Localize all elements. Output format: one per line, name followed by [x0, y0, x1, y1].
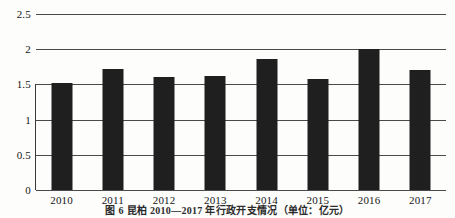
- bar-2011: [102, 69, 123, 190]
- bar-slot-2016: 2016: [344, 14, 395, 190]
- bar-2013: [205, 76, 226, 190]
- y-axis-tick-label: 2: [25, 44, 31, 55]
- y-axis-tick-label: 1: [25, 114, 31, 125]
- bar-2010: [51, 83, 72, 190]
- bars-group: 20102011201220132014201520162017: [36, 14, 446, 190]
- bar-2012: [154, 77, 175, 190]
- y-axis-tick-label: 0: [25, 185, 31, 196]
- bar-2015: [307, 79, 328, 190]
- y-axis-tick-label: 1.5: [17, 79, 31, 90]
- bar-slot-2012: 2012: [139, 14, 190, 190]
- bar-slot-2011: 2011: [87, 14, 138, 190]
- figure-caption: 图 6 昆柏 2010—2017 年行政开支情况（单位：亿元）: [0, 204, 455, 217]
- y-axis-tick-label: 2.5: [17, 9, 31, 20]
- chart-plot-area: 00.511.522.5 201020112012201320142015201…: [36, 14, 446, 190]
- y-axis-tick-label: 0.5: [17, 149, 31, 160]
- bar-slot-2017: 2017: [395, 14, 446, 190]
- bar-2017: [410, 70, 431, 190]
- bar-slot-2014: 2014: [241, 14, 292, 190]
- bar-slot-2013: 2013: [190, 14, 241, 190]
- bar-2014: [256, 59, 277, 190]
- bar-slot-2010: 2010: [36, 14, 87, 190]
- bar-2016: [359, 49, 380, 190]
- bar-slot-2015: 2015: [292, 14, 343, 190]
- gridline-0: [36, 190, 446, 191]
- figure-container: 00.511.522.5 201020112012201320142015201…: [0, 0, 455, 218]
